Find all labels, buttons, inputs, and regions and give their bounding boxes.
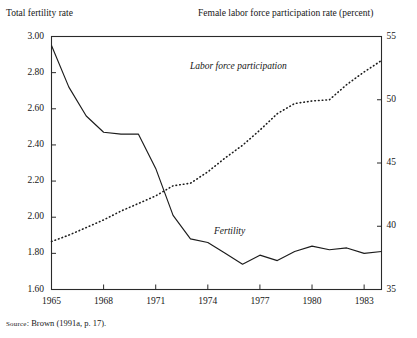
source-prefix: Source — [6, 320, 27, 328]
series-label-fertility: Fertility — [214, 226, 245, 236]
y-tick-label-2.60: 2.60 — [14, 103, 44, 113]
y2-tick-label-45: 45 — [387, 157, 417, 167]
series-label-labor-force-participation: Labor force participation — [190, 61, 287, 71]
y-tick-label-1.60: 1.60 — [14, 284, 44, 294]
y2-tick-label-35: 35 — [387, 284, 417, 294]
y2-tick-label-50: 50 — [387, 94, 417, 104]
y2-tick-label-55: 55 — [387, 31, 417, 41]
x-tick-label-1974: 1974 — [188, 296, 228, 306]
chart-plot — [0, 0, 417, 338]
figure-container: Total fertility rate Female labor force … — [0, 0, 417, 338]
y-tick-label-2.00: 2.00 — [14, 211, 44, 221]
x-tick-label-1965: 1965 — [32, 296, 72, 306]
x-tick-label-1980: 1980 — [292, 296, 332, 306]
y-tick-label-2.20: 2.20 — [14, 175, 44, 185]
series-line-labor-force-participation — [52, 61, 382, 242]
source-text: : Brown (1991a, p. 17). — [27, 318, 107, 328]
source-note: Source: Brown (1991a, p. 17). — [6, 318, 106, 328]
x-tick-label-1968: 1968 — [84, 296, 124, 306]
x-tick-label-1971: 1971 — [136, 296, 176, 306]
y2-tick-label-40: 40 — [387, 220, 417, 230]
plot-frame — [52, 37, 382, 290]
y-tick-label-3.00: 3.00 — [14, 31, 44, 41]
y-tick-label-2.80: 2.80 — [14, 67, 44, 77]
y-tick-label-1.80: 1.80 — [14, 247, 44, 257]
tick-marks — [52, 73, 382, 290]
x-tick-label-1977: 1977 — [240, 296, 280, 306]
x-tick-label-1983: 1983 — [344, 296, 384, 306]
y-tick-label-2.40: 2.40 — [14, 139, 44, 149]
